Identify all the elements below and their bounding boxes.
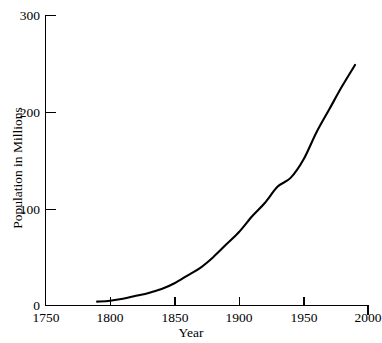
x-tick-label-1850: 1850 xyxy=(149,311,201,325)
x-tick-label-1900: 1900 xyxy=(213,311,265,325)
population-curve xyxy=(97,65,355,302)
y-tick-label-300: 300 xyxy=(10,9,40,23)
x-tick-label-1950: 1950 xyxy=(278,311,330,325)
y-axis-title: Population in Millions xyxy=(10,68,26,268)
x-tick-label-1800: 1800 xyxy=(84,311,136,325)
chart-plot-area xyxy=(0,0,382,343)
x-tick-label-1750: 1750 xyxy=(20,311,72,325)
y-axis-ticks xyxy=(46,16,56,210)
x-tick-label-2000: 2000 xyxy=(342,311,382,325)
population-growth-chart: 300 200 100 0 1750 1800 1850 1900 1950 2… xyxy=(0,0,382,343)
x-axis-title: Year xyxy=(0,325,382,341)
